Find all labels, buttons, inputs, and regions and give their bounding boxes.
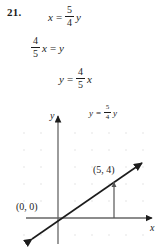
equation-2-denominator: 5 <box>33 48 38 59</box>
equation-3-denominator: 5 <box>78 79 83 90</box>
equation-1-right-variable: y <box>75 11 82 23</box>
equation-1-left-variable: x <box>47 11 54 23</box>
equation-2: 4 5 x = y <box>30 36 65 59</box>
problem-number: 21. <box>7 6 21 18</box>
y-axis-label: y <box>49 110 55 121</box>
equation-2-right-variable: y <box>58 42 65 54</box>
equation-3-fraction: 4 5 <box>76 67 85 90</box>
equation-2-numerator: 4 <box>33 36 38 47</box>
grid-dots <box>23 132 143 235</box>
equation-3: y = 4 5 x <box>58 67 93 90</box>
equation-3-left-variable: y <box>58 73 65 85</box>
equation-1-relation: = <box>54 11 64 23</box>
equation-3-numerator: 4 <box>78 67 83 78</box>
equation-2-fraction: 4 5 <box>31 36 40 59</box>
equation-1-numerator: 5 <box>67 5 72 16</box>
equation-1-fraction: 5 4 <box>65 5 74 28</box>
equation-3-right-variable: x <box>86 73 93 85</box>
equation-1-denominator: 4 <box>67 17 72 28</box>
equation-2-relation: = <box>48 42 58 54</box>
point-label-5-4: (5, 4) <box>93 164 115 176</box>
equation-1: x = 5 4 y <box>47 5 82 28</box>
equation-2-left-variable: x <box>41 42 48 54</box>
equation-3-relation: = <box>65 73 75 85</box>
point-label-origin: (0, 0) <box>16 201 38 213</box>
coordinate-plane: y x (0, 0) (5, 4) <box>0 100 164 251</box>
x-axis-label: x <box>149 222 155 233</box>
